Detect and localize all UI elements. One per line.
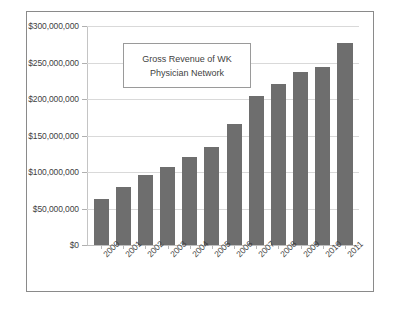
x-tick-mark (323, 245, 324, 249)
bar-2005 (204, 147, 219, 245)
x-tick-mark (301, 245, 302, 249)
bar-2002 (138, 175, 153, 245)
bar-2010 (315, 67, 330, 245)
x-tick-mark (123, 245, 124, 249)
bar-2008 (271, 84, 286, 245)
bar-2007 (249, 96, 264, 245)
chart-title-line-1: Gross Revenue of WK (142, 52, 232, 66)
bar-2009 (293, 72, 308, 245)
y-tick-label: $250,000,000 (28, 58, 79, 68)
chart-title-box: Gross Revenue of WK Physician Network (123, 43, 251, 88)
y-tick-label: $0 (70, 240, 79, 250)
y-tick-label: $50,000,000 (33, 204, 79, 214)
bar-2003 (160, 167, 175, 245)
bar-slot (290, 26, 312, 245)
x-label-slot: 2002 (134, 245, 156, 285)
bar-slot (90, 26, 112, 245)
bar-2000 (94, 199, 109, 245)
x-label-slot: 2003 (157, 245, 179, 285)
bar-2006 (227, 124, 242, 245)
y-tick-label: $200,000,000 (28, 94, 79, 104)
x-tick-mark (256, 245, 257, 249)
x-label-slot: 2000 (90, 245, 112, 285)
x-label-slot: 2011 (334, 245, 356, 285)
bar-2001 (116, 187, 131, 245)
x-tick-mark (345, 245, 346, 249)
y-tick-label: $100,000,000 (28, 167, 79, 177)
x-axis-labels: 2000200120022003200420052006200720082009… (87, 245, 359, 285)
bar-slot (334, 26, 356, 245)
x-label-slot: 2001 (112, 245, 134, 285)
x-label-slot: 2006 (223, 245, 245, 285)
x-label-slot: 2010 (312, 245, 334, 285)
y-tick-label: $300,000,000 (28, 21, 79, 31)
bar-2011 (337, 43, 352, 245)
chart-frame: $0$50,000,000$100,000,000$150,000,000$20… (26, 11, 374, 292)
x-label-slot: 2009 (290, 245, 312, 285)
x-label-slot: 2007 (245, 245, 267, 285)
x-label-slot: 2004 (179, 245, 201, 285)
chart-title-line-2: Physician Network (150, 66, 224, 80)
bar-slot (267, 26, 289, 245)
y-tick-label: $150,000,000 (28, 131, 79, 141)
x-tick-mark (168, 245, 169, 249)
x-label-slot: 2008 (267, 245, 289, 285)
x-tick-mark (212, 245, 213, 249)
bar-2004 (182, 157, 197, 245)
x-label-slot: 2005 (201, 245, 223, 285)
x-tick-mark (101, 245, 102, 249)
bar-slot (312, 26, 334, 245)
x-tick-mark (278, 245, 279, 249)
x-tick-mark (234, 245, 235, 249)
x-tick-mark (145, 245, 146, 249)
x-tick-mark (190, 245, 191, 249)
